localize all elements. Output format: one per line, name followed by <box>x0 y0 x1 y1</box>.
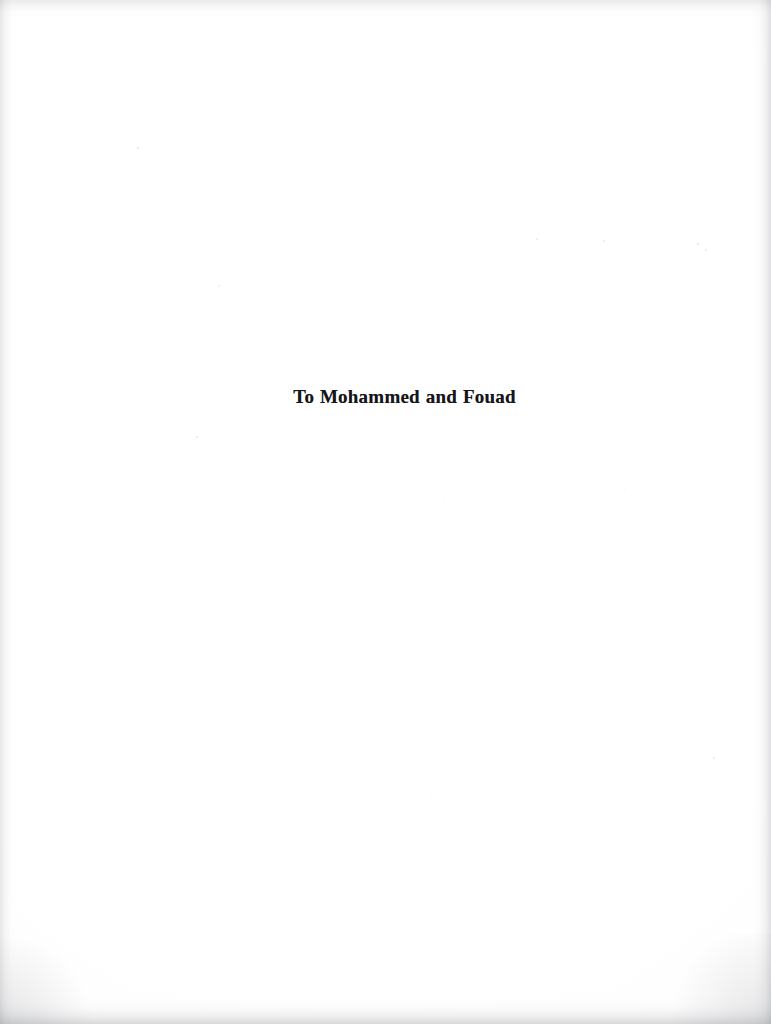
scan-speck <box>624 489 625 490</box>
dedication-block: To Mohammed and Fouad <box>0 385 771 409</box>
scan-edge-shadow-bottom <box>0 998 771 1024</box>
scan-speck <box>713 757 715 759</box>
scan-speck <box>538 563 539 564</box>
scan-speck <box>333 88 334 89</box>
paper-texture <box>0 0 771 1024</box>
scan-speck <box>536 238 538 240</box>
scan-speck <box>431 794 432 795</box>
scan-corner-shadow-bottom-right <box>661 934 771 1024</box>
scan-edge-shadow-right <box>753 0 771 1024</box>
scanned-page: To Mohammed and Fouad <box>0 0 771 1024</box>
scan-speck <box>705 249 707 251</box>
scan-speck <box>230 629 231 630</box>
scan-edge-shadow-left <box>0 0 16 1024</box>
scan-speck <box>603 240 605 242</box>
scan-speck <box>196 436 198 438</box>
scan-speck <box>697 243 699 245</box>
scan-corner-shadow-bottom-left <box>0 934 90 1024</box>
scan-speck <box>218 285 220 287</box>
scan-speck <box>443 497 444 498</box>
scan-speck <box>137 147 139 149</box>
dedication-text: To Mohammed and Fouad <box>293 385 516 409</box>
scan-edge-shadow-top <box>0 0 771 18</box>
